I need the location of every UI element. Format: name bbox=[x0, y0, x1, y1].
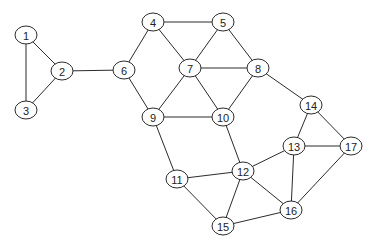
edge-9-11 bbox=[153, 117, 177, 179]
node-label: 17 bbox=[345, 141, 357, 153]
node-2: 2 bbox=[51, 62, 73, 80]
node-label: 9 bbox=[150, 112, 156, 124]
node-label: 6 bbox=[121, 65, 127, 77]
node-11: 11 bbox=[166, 170, 188, 188]
node-label: 11 bbox=[171, 174, 182, 186]
node-label: 5 bbox=[220, 17, 226, 29]
node-17: 17 bbox=[340, 137, 362, 155]
node-4: 4 bbox=[142, 13, 164, 31]
node-9: 9 bbox=[142, 108, 164, 126]
node-12: 12 bbox=[232, 162, 254, 180]
node-layer: 1234567891011121314151617 bbox=[15, 13, 362, 235]
node-1: 1 bbox=[15, 26, 37, 44]
edge-16-17 bbox=[291, 146, 351, 210]
node-label: 1 bbox=[23, 30, 29, 42]
node-10: 10 bbox=[212, 108, 234, 126]
node-16: 16 bbox=[280, 201, 302, 219]
node-15: 15 bbox=[212, 217, 234, 235]
node-label: 10 bbox=[217, 112, 229, 124]
node-label: 15 bbox=[217, 221, 229, 233]
edge-13-16 bbox=[291, 146, 294, 210]
node-label: 2 bbox=[59, 66, 65, 78]
node-label: 13 bbox=[288, 141, 300, 153]
node-label: 12 bbox=[237, 166, 249, 178]
edge-layer bbox=[26, 22, 351, 226]
graph-diagram: 1234567891011121314151617 bbox=[0, 0, 376, 250]
node-label: 7 bbox=[187, 63, 193, 75]
node-8: 8 bbox=[247, 59, 269, 77]
node-7: 7 bbox=[179, 59, 201, 77]
node-13: 13 bbox=[283, 137, 305, 155]
node-label: 3 bbox=[23, 105, 29, 117]
node-6: 6 bbox=[113, 61, 135, 79]
node-3: 3 bbox=[15, 101, 37, 119]
node-label: 8 bbox=[255, 63, 261, 75]
node-5: 5 bbox=[212, 13, 234, 31]
node-14: 14 bbox=[300, 96, 322, 114]
node-label: 14 bbox=[305, 100, 317, 112]
node-label: 16 bbox=[285, 205, 297, 217]
node-label: 4 bbox=[150, 17, 156, 29]
